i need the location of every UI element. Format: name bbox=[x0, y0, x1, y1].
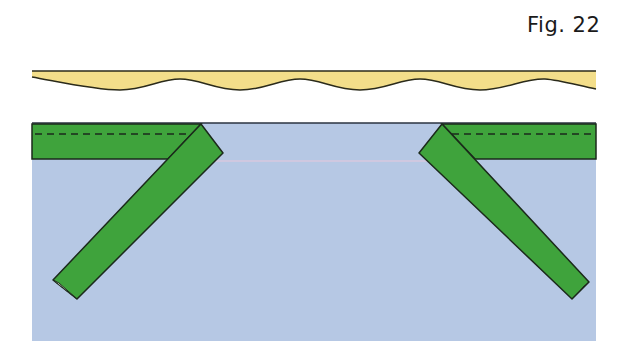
binding-diagram bbox=[0, 0, 628, 363]
